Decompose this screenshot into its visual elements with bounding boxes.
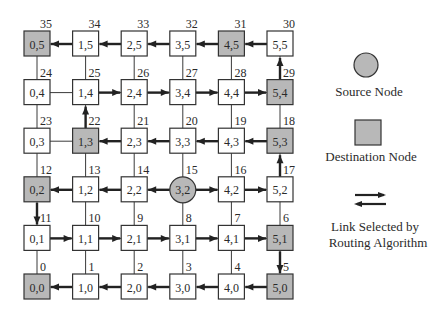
destination-node: 4,531	[218, 17, 246, 56]
node-index-label: 23	[40, 114, 52, 128]
destination-node: 0,212	[24, 163, 52, 202]
selected-link-arrow	[51, 186, 73, 193]
node-index-label: 35	[40, 17, 52, 31]
node-index-label: 9	[137, 211, 143, 225]
node-index-label: 33	[137, 17, 149, 31]
node-coordinate-label: 5,3	[273, 135, 288, 149]
node-coordinate-label: 3,0	[175, 281, 190, 295]
selected-link-arrow	[197, 138, 219, 145]
selected-link-arrow	[99, 235, 121, 242]
node-index-label: 31	[234, 17, 246, 31]
selected-link-arrow	[100, 138, 122, 145]
node-coordinate-label: 4,5	[224, 38, 239, 52]
node-coordinate-label: 3,3	[175, 135, 190, 149]
node-index-label: 1	[89, 260, 95, 274]
selected-link-arrow	[244, 89, 266, 96]
node-index-label: 29	[283, 66, 295, 80]
node-coordinate-label: 2,5	[127, 38, 142, 52]
node-coordinate-label: 1,5	[78, 38, 93, 52]
legend-link-label-2: Routing Algorithm	[329, 235, 428, 250]
node-coordinate-label: 3,5	[175, 38, 190, 52]
mesh-node: 1,110	[73, 211, 101, 250]
selected-link-arrow	[99, 89, 121, 96]
node-index-label: 7	[234, 211, 240, 225]
mesh-node: 5,530	[267, 17, 295, 56]
legend-link-label-1: Link Selected by	[331, 219, 420, 234]
legend-link-icon	[354, 192, 386, 207]
selected-link-arrow	[51, 41, 73, 48]
node-coordinate-label: 1,4	[78, 86, 93, 100]
node-coordinate-label: 2,0	[127, 281, 142, 295]
node-index-label: 22	[89, 114, 101, 128]
selected-link-arrow	[100, 284, 122, 291]
node-coordinate-label: 4,2	[224, 183, 239, 197]
node-index-label: 11	[40, 211, 52, 225]
selected-link-arrow	[196, 186, 218, 193]
node-index-label: 20	[186, 114, 198, 128]
node-index-label: 32	[186, 17, 198, 31]
selected-link-arrow	[197, 41, 219, 48]
node-index-label: 25	[89, 66, 101, 80]
mesh-node: 2,321	[121, 114, 149, 153]
node-index-label: 13	[89, 163, 101, 177]
node-coordinate-label: 0,5	[30, 38, 45, 52]
mesh-node: 0,323	[24, 114, 52, 153]
node-coordinate-label: 2,3	[127, 135, 142, 149]
node-coordinate-label: 3,2	[175, 183, 190, 197]
node-coordinate-label: 0,4	[30, 86, 45, 100]
node-coordinate-label: 1,0	[78, 281, 93, 295]
node-index-label: 2	[137, 260, 143, 274]
legend: Source Node Destination Node Link Select…	[325, 53, 427, 250]
node-coordinate-label: 4,0	[224, 281, 239, 295]
node-coordinate-label: 4,1	[224, 232, 239, 246]
mesh-node: 1,425	[73, 66, 101, 105]
mesh-node: 4,319	[218, 114, 246, 153]
node-index-label: 14	[137, 163, 149, 177]
node-coordinate-label: 0,3	[30, 135, 45, 149]
legend-destination-icon	[355, 120, 381, 145]
selected-link-arrow	[50, 235, 72, 242]
node-index-label: 21	[137, 114, 149, 128]
mesh-nodes: 0,001,012,023,034,045,055,164,173,182,19…	[24, 17, 295, 299]
selected-link-arrow	[245, 41, 267, 48]
node-coordinate-label: 3,1	[175, 232, 190, 246]
node-coordinate-label: 2,1	[127, 232, 142, 246]
node-index-label: 5	[283, 260, 289, 274]
selected-link-arrow	[148, 138, 170, 145]
node-index-label: 18	[283, 114, 295, 128]
selected-link-arrow	[244, 186, 266, 193]
node-index-label: 16	[234, 163, 246, 177]
node-coordinate-label: 1,1	[78, 232, 93, 246]
mesh-node: 1,534	[73, 17, 101, 56]
selected-link-arrow	[196, 89, 218, 96]
selected-link-arrow	[148, 284, 170, 291]
destination-node: 5,318	[267, 114, 295, 153]
node-coordinate-label: 5,5	[273, 38, 288, 52]
node-index-label: 24	[40, 66, 52, 80]
node-coordinate-label: 3,4	[175, 86, 190, 100]
node-index-label: 17	[283, 163, 295, 177]
node-coordinate-label: 0,1	[30, 232, 45, 246]
mesh-node: 2,533	[121, 17, 149, 56]
node-coordinate-label: 0,0	[30, 281, 45, 295]
selected-link-arrow	[147, 235, 169, 242]
selected-link-arrow	[196, 235, 218, 242]
selected-link-arrow	[245, 138, 267, 145]
legend-destination-label: Destination Node	[325, 149, 417, 164]
node-index-label: 0	[40, 260, 46, 274]
selected-link-arrow	[148, 41, 170, 48]
mesh-node: 2,214	[121, 163, 149, 202]
source-node: 3,215	[170, 163, 198, 203]
node-coordinate-label: 1,2	[78, 183, 93, 197]
mesh-diagram: 0,001,012,023,034,045,055,164,173,182,19…	[0, 0, 443, 315]
node-coordinate-label: 0,2	[30, 183, 45, 197]
selected-link-arrow	[51, 284, 73, 291]
selected-link-arrow	[245, 284, 267, 291]
node-index-label: 19	[234, 114, 246, 128]
node-index-label: 4	[234, 260, 240, 274]
mesh-node: 3,532	[170, 17, 198, 56]
node-index-label: 3	[186, 260, 192, 274]
node-index-label: 34	[89, 17, 101, 31]
selected-link-arrow	[244, 235, 266, 242]
node-index-label: 28	[234, 66, 246, 80]
